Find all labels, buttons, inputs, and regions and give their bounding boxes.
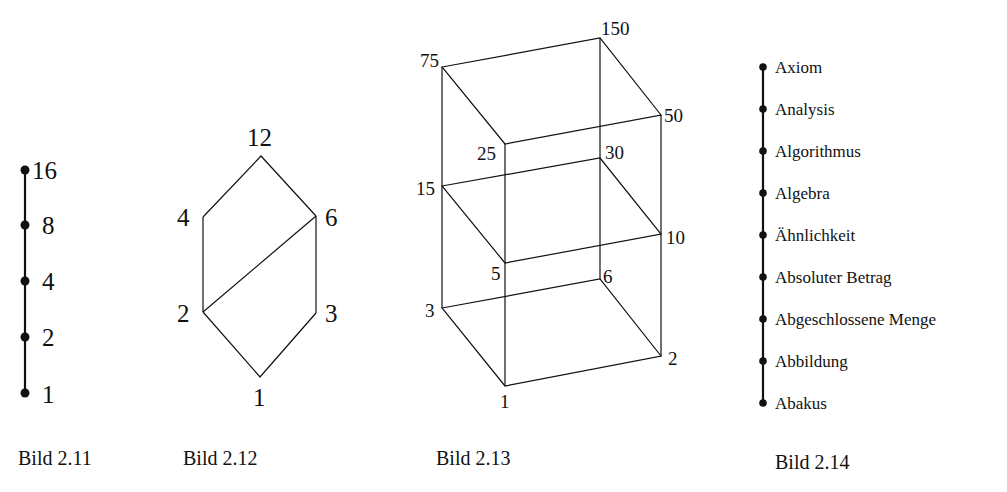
edge (442, 279, 661, 386)
node-label: 6 (325, 204, 338, 231)
node-dot (759, 399, 767, 407)
edge (203, 216, 316, 312)
figure-2-14: Axiom Analysis Algorithmus Algebra Ähnli… (759, 58, 936, 473)
node-label: 2 (668, 348, 678, 369)
figure-2-12: 12 4 6 2 3 1 Bild 2.12 (177, 124, 338, 469)
node-dot (759, 189, 767, 197)
edge (442, 158, 661, 263)
edge (442, 38, 661, 144)
node-label: 3 (325, 300, 338, 327)
node-label: 10 (666, 227, 685, 248)
node-label: 4 (177, 204, 190, 231)
figure-caption: Bild 2.14 (775, 451, 849, 473)
node-label: 25 (477, 143, 496, 164)
node-label: Analysis (775, 100, 835, 119)
node-label: 1 (500, 391, 510, 412)
figure-caption: Bild 2.12 (183, 447, 257, 469)
node-dot (21, 333, 30, 342)
node-label: Axiom (775, 58, 822, 77)
node-dot (759, 315, 767, 323)
node-dot (759, 273, 767, 281)
node-label: Absoluter Betrag (775, 268, 892, 287)
figure-2-11: 16 8 4 2 1 Bild 2.11 (18, 157, 92, 469)
node-label: 2 (177, 300, 190, 327)
node-label: 50 (664, 105, 683, 126)
node-label: Ähnlichkeit (775, 226, 856, 245)
node-label: Abakus (775, 394, 827, 413)
figures-canvas: 16 8 4 2 1 Bild 2.11 12 4 6 2 3 1 Bild 2… (0, 0, 1007, 492)
node-dot (21, 277, 30, 286)
node-label: Algebra (775, 184, 830, 203)
node-label: 12 (247, 124, 272, 151)
node-label: 8 (42, 212, 55, 239)
node-dot (21, 389, 30, 398)
node-label: 16 (32, 157, 57, 184)
node-dot (759, 231, 767, 239)
node-label: 6 (603, 266, 613, 287)
node-label: 15 (416, 178, 435, 199)
node-label: 2 (42, 324, 55, 351)
node-label: 30 (605, 142, 624, 163)
node-dot (21, 166, 30, 175)
figure-2-13: 75 150 25 50 15 30 5 10 3 6 1 2 Bild 2.1… (416, 18, 685, 469)
edge (203, 312, 316, 377)
node-dot (759, 147, 767, 155)
node-dot (21, 221, 30, 230)
node-label: Abbildung (775, 352, 848, 371)
figure-caption: Bild 2.13 (436, 447, 510, 469)
node-label: Algorithmus (775, 142, 861, 161)
node-label: 1 (253, 384, 266, 411)
node-dot (759, 105, 767, 113)
node-label: 3 (425, 300, 435, 321)
node-label: Abgeschlossene Menge (775, 310, 936, 329)
figure-caption: Bild 2.11 (18, 447, 92, 469)
node-label: 75 (420, 50, 439, 71)
node-label: 150 (601, 18, 630, 39)
node-label: 5 (491, 263, 501, 284)
node-label: 1 (42, 381, 55, 408)
node-dot (759, 63, 767, 71)
node-dot (759, 357, 767, 365)
node-label: 4 (42, 268, 55, 295)
edge (203, 156, 316, 217)
